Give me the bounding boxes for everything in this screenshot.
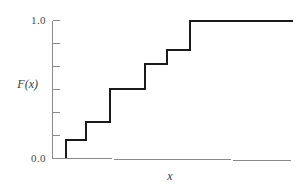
y-axis-bottom-label: 0.0 xyxy=(31,152,46,164)
cdf-step-path xyxy=(66,21,293,158)
x-axis-line xyxy=(53,159,292,161)
cdf-step-chart: 1.0 0.0 F(x) x xyxy=(0,0,300,188)
x-axis-title: x xyxy=(166,169,173,183)
y-axis-title: F(x) xyxy=(16,77,38,91)
chart-svg: 1.0 0.0 F(x) x xyxy=(0,0,300,188)
y-axis-top-label: 1.0 xyxy=(31,14,46,26)
